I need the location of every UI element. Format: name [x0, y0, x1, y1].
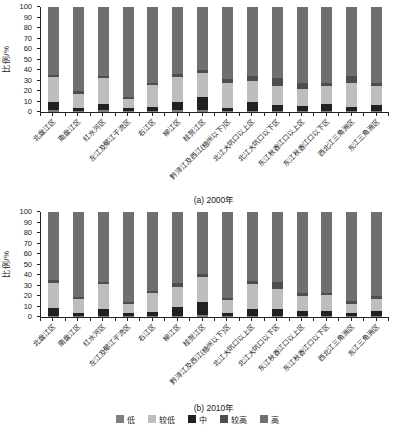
stacked-bar	[321, 212, 332, 317]
bar-segment-低	[172, 316, 183, 317]
bar-segment-低	[222, 316, 233, 317]
bar-segment-高	[346, 212, 357, 301]
x-tick-mark	[351, 318, 352, 321]
x-tick-mark	[127, 113, 128, 116]
x-tick-mark	[251, 113, 252, 116]
y-tick-label: 0	[6, 313, 32, 321]
x-tick-mark	[289, 318, 290, 321]
x-tick-mark	[77, 113, 78, 116]
legend-label: 中	[199, 414, 207, 425]
x-tick-label: 南盘江区	[57, 118, 82, 143]
x-tick-mark	[214, 318, 215, 321]
bar-segment-较低	[123, 304, 134, 312]
bar-segment-较低	[222, 83, 233, 108]
x-tick-mark	[177, 318, 178, 321]
stacked-bar	[247, 212, 258, 317]
x-tick-mark	[52, 113, 53, 116]
x-tick-mark	[264, 113, 265, 116]
x-tick-mark	[40, 113, 41, 116]
stacked-bar	[123, 212, 134, 317]
stacked-bar	[371, 7, 382, 112]
stacked-bar	[73, 212, 84, 317]
bar-segment-较低	[73, 299, 84, 313]
x-tick-mark	[313, 113, 314, 116]
bar-segment-较低	[48, 77, 59, 101]
bar-segment-低	[123, 316, 134, 317]
stacked-bar	[346, 7, 357, 112]
bar-segment-较低	[123, 99, 134, 107]
bar-segment-低	[172, 110, 183, 112]
legend-item: 低	[116, 414, 135, 425]
x-tick-mark	[102, 113, 103, 116]
stacked-bar	[346, 212, 357, 317]
bar-segment-较低	[371, 299, 382, 311]
bar-segment-高	[346, 7, 357, 76]
x-tick-mark	[326, 113, 327, 116]
x-tick-mark	[189, 113, 190, 116]
x-tick-mark	[363, 113, 364, 116]
bar-segment-低	[48, 110, 59, 112]
x-tick-mark	[139, 113, 140, 116]
bar-segment-中	[197, 97, 208, 110]
stacked-bar	[222, 212, 233, 317]
stacked-bar	[73, 7, 84, 112]
bar-segment-较低	[98, 78, 109, 103]
x-tick-mark	[152, 113, 153, 116]
bar-segment-较低	[147, 85, 158, 107]
x-tick-mark	[376, 113, 377, 116]
x-tick-mark	[202, 113, 203, 116]
bar-segment-较低	[272, 289, 283, 309]
bar-segment-高	[147, 7, 158, 83]
y-axis-ticks: 0102030405060708090100	[0, 212, 40, 317]
x-tick-mark	[90, 113, 91, 116]
stacked-bar	[272, 7, 283, 112]
legend-item: 高	[260, 414, 279, 425]
bar-segment-高	[247, 212, 258, 281]
bar-segment-较低	[247, 81, 258, 102]
bar-segment-低	[321, 316, 332, 317]
x-tick-mark	[102, 318, 103, 321]
x-tick-label: 北盘江区	[33, 118, 58, 143]
bar-segment-高	[272, 212, 283, 282]
x-tick-mark	[52, 318, 53, 321]
bar-segment-高	[272, 7, 283, 78]
bar-segment-较低	[98, 284, 109, 308]
bar-segment-高	[172, 7, 183, 74]
x-tick-label: 北盘江区	[33, 323, 58, 348]
bar-segment-较低	[147, 293, 158, 312]
y-tick-label: 20	[6, 87, 32, 95]
bar-segment-高	[247, 7, 258, 76]
x-tick-mark	[326, 318, 327, 321]
stacked-bar	[48, 7, 59, 112]
bar-segment-低	[98, 316, 109, 317]
stacked-bar	[197, 7, 208, 112]
bar-segment-高	[123, 7, 134, 97]
x-tick-mark	[301, 113, 302, 116]
bar-segment-低	[73, 111, 84, 112]
bar-segment-较低	[321, 86, 332, 104]
stacked-bar	[247, 7, 258, 112]
stacked-bar	[172, 7, 183, 112]
bar-segment-中	[197, 302, 208, 315]
plot-area-2000	[40, 7, 389, 113]
x-axis-labels-2000: 北盘江区南盘江区红水河区左江及郁江干流区右江区柳江区桂贺江区黔浔江及西江(梧州以…	[40, 113, 388, 197]
bar-segment-高	[321, 212, 332, 293]
x-tick-mark	[289, 113, 290, 116]
bar-segment-较低	[272, 86, 283, 105]
x-tick-label: 柳江区	[162, 323, 183, 344]
x-tick-mark	[115, 113, 116, 116]
stacked-bar	[197, 212, 208, 317]
legend-label: 较高	[231, 414, 247, 425]
x-tick-mark	[338, 318, 339, 321]
stacked-bar	[123, 7, 134, 112]
bar-segment-高	[371, 7, 382, 83]
bar-segment-中	[48, 102, 59, 110]
bar-segment-低	[247, 316, 258, 317]
bar-segment-较低	[197, 73, 208, 97]
stacked-bar	[147, 7, 158, 112]
bar-segment-低	[48, 316, 59, 317]
bar-segment-高	[123, 212, 134, 302]
bar-segment-较低	[297, 296, 308, 311]
x-tick-mark	[202, 318, 203, 321]
y-axis-ticks: 0102030405060708090100	[0, 7, 40, 112]
